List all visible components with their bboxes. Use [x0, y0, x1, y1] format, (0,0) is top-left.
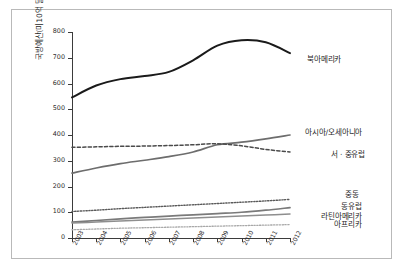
y-tick-label: 200 [53, 182, 65, 191]
series-line [72, 225, 290, 230]
y-tick-label: 400 [53, 130, 65, 139]
series-label-north-america: 북아메리카 [307, 55, 341, 65]
y-tick-mark [68, 212, 72, 213]
y-tick-label: 700 [53, 53, 65, 62]
y-tick-label: 0 [61, 233, 65, 242]
series-label-africa: 아프리카 [334, 220, 361, 230]
series-line [72, 199, 290, 211]
y-tick-mark [68, 32, 72, 33]
y-tick-label: 600 [53, 79, 65, 88]
series-line [72, 135, 290, 173]
y-tick-mark [68, 161, 72, 162]
chart-figure: 국방예산(미10억 달러) 0100200300400500600700800 … [0, 0, 403, 270]
series-label-west-central-europe: 서 · 중유럽 [331, 150, 365, 160]
series-line [72, 40, 290, 97]
series-label-middle-east: 중동 [345, 190, 359, 200]
y-tick-label: 500 [53, 104, 65, 113]
y-axis-title: 국방예산(미10억 달러) [34, 0, 45, 60]
y-tick-mark [68, 109, 72, 110]
y-tick-label: 800 [53, 27, 65, 36]
y-tick-mark [68, 84, 72, 85]
y-tick-mark [68, 135, 72, 136]
y-tick-label: 100 [53, 207, 65, 216]
y-tick-label: 300 [53, 156, 65, 165]
series-label-asia-oceania: 아시아/오세아니아 [305, 128, 362, 138]
y-tick-mark [68, 187, 72, 188]
plot-area: 0100200300400500600700800 20032004200520… [72, 32, 290, 238]
series-label-eastern-europe: 동유럽 [341, 202, 362, 212]
series-line [72, 144, 290, 152]
y-tick-mark [68, 58, 72, 59]
series-lines [72, 32, 290, 238]
